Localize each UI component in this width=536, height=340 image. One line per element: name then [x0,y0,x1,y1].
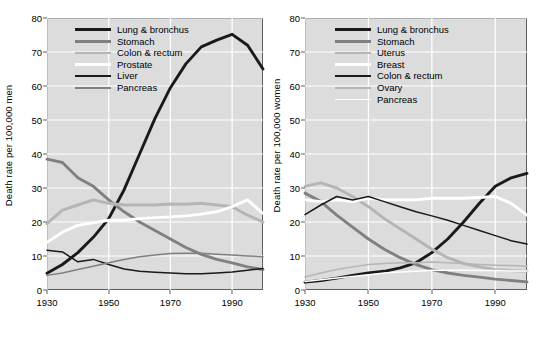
series-line-2 [47,200,263,224]
y-tick-label: 80 [289,13,300,24]
x-tick-label: 1950 [358,297,379,308]
legend-item: Stomach [75,36,189,48]
legend-item: Pancreas [335,94,449,106]
series-line-4 [305,197,527,245]
legend-item-label: Liver [117,70,138,82]
legend-swatch-icon [335,87,371,89]
plot-area-men: Lung & bronchusStomachColon & rectumPros… [47,18,263,290]
legend-men: Lung & bronchusStomachColon & rectumPros… [75,24,189,94]
y-tick-mark [43,256,47,257]
x-tick-mark [170,290,171,294]
legend-swatch-icon [335,52,371,55]
y-tick-label: 10 [31,251,42,262]
legend-item-label: Lung & bronchus [117,24,189,36]
y-tick-label: 80 [31,13,42,24]
panel-men: Death rate per 100,000 men Lung & bronch… [0,0,268,340]
y-tick-label: 70 [289,47,300,58]
legend-item-label: Colon & rectum [117,47,182,59]
x-tick-label: 1930 [36,297,57,308]
y-tick-label: 30 [289,183,300,194]
y-tick-mark [43,18,47,19]
y-tick-mark [43,222,47,223]
x-tick-mark [232,290,233,294]
y-tick-mark [301,86,305,87]
legend-item: Ovary [335,82,449,94]
y-tick-label: 30 [31,183,42,194]
legend-item-label: Uterus [377,47,405,59]
figure-two-panel-cancer-death-rates: Death rate per 100,000 men Lung & bronch… [0,0,536,340]
y-tick-mark [43,120,47,121]
legend-item-label: Lung & bronchus [377,24,449,36]
y-tick-mark [301,256,305,257]
x-tick-mark [47,290,48,294]
x-tick-label: 1930 [294,297,315,308]
legend-item-label: Stomach [377,36,415,48]
x-tick-mark [368,290,369,294]
y-tick-mark [301,18,305,19]
y-tick-label: 70 [31,47,42,58]
legend-item: Liver [75,70,189,82]
y-tick-mark [43,188,47,189]
legend-swatch-icon [335,28,371,31]
legend-item: Prostate [75,59,189,71]
y-tick-mark [43,86,47,87]
legend-item: Lung & bronchus [75,24,189,36]
legend-item-label: Colon & rectum [377,70,442,82]
y-tick-label: 10 [289,251,300,262]
y-tick-mark [301,52,305,53]
y-tick-label: 0 [295,285,300,296]
legend-women: Lung & bronchusStomachUterusBreastColon … [335,24,449,105]
legend-item-label: Prostate [117,59,152,71]
legend-item: Colon & rectum [75,47,189,59]
legend-swatch-icon [335,75,371,77]
legend-swatch-icon [75,40,111,43]
legend-swatch-icon [75,87,111,89]
plot-area-women: Lung & bronchusStomachUterusBreastColon … [305,18,527,290]
legend-item-label: Ovary [377,82,402,94]
y-tick-label: 20 [31,217,42,228]
y-tick-label: 60 [289,81,300,92]
x-tick-label: 1970 [421,297,442,308]
y-tick-mark [43,154,47,155]
x-tick-mark [305,290,306,294]
legend-item-label: Breast [377,59,404,71]
y-axis-label-men: Death rate per 100,000 men [2,0,16,290]
legend-swatch-icon [75,52,111,55]
y-tick-mark [301,154,305,155]
legend-item-label: Pancreas [377,94,417,106]
legend-swatch-icon [335,40,371,43]
legend-swatch-icon [75,28,111,31]
legend-swatch-icon [75,75,111,77]
y-tick-label: 0 [37,285,42,296]
x-tick-label: 1990 [485,297,506,308]
x-tick-label: 1990 [222,297,243,308]
y-tick-label: 40 [289,149,300,160]
y-tick-label: 40 [31,149,42,160]
x-tick-mark [495,290,496,294]
legend-item: Breast [335,59,449,71]
legend-item-label: Stomach [117,36,155,48]
x-tick-label: 1970 [160,297,181,308]
y-tick-label: 20 [289,217,300,228]
legend-item: Colon & rectum [335,70,449,82]
panel-women: Death rate per 100,000 women Lung & bron… [268,0,536,340]
y-tick-mark [43,52,47,53]
legend-swatch-icon [335,63,371,66]
legend-item-label: Pancreas [117,82,157,94]
y-tick-mark [301,120,305,121]
legend-swatch-icon [335,99,371,101]
y-tick-label: 50 [289,115,300,126]
legend-swatch-icon [75,63,111,66]
y-axis-label-women: Death rate per 100,000 women [270,0,284,290]
legend-item: Lung & bronchus [335,24,449,36]
x-tick-mark [108,290,109,294]
x-tick-label: 1950 [98,297,119,308]
x-tick-mark [431,290,432,294]
legend-item: Stomach [335,36,449,48]
y-tick-mark [301,222,305,223]
y-tick-label: 60 [31,81,42,92]
y-tick-label: 50 [31,115,42,126]
legend-item: Pancreas [75,82,189,94]
y-tick-mark [301,188,305,189]
legend-item: Uterus [335,47,449,59]
